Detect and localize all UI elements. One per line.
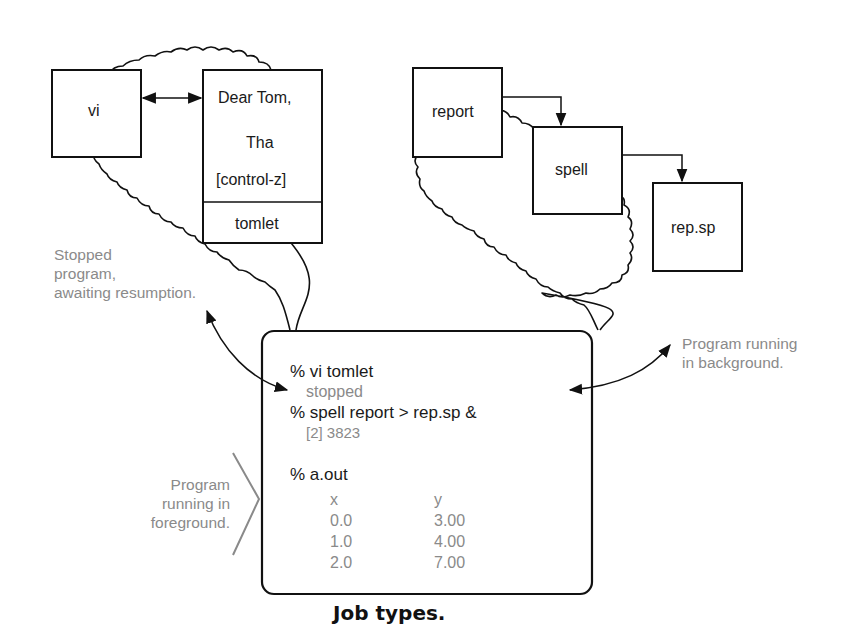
report-label: report — [432, 103, 474, 121]
table-cell: 0.0 — [330, 512, 352, 530]
figure-caption: Job types. — [333, 601, 445, 625]
background-annotation-line: Program running — [682, 334, 797, 353]
spell-to-repsp-arrow — [622, 155, 682, 181]
table-cell: 2.0 — [330, 554, 352, 572]
table-header-y: y — [434, 491, 442, 509]
stopped-annotation-line: awaiting resumption. — [54, 283, 196, 302]
foreground-annotation-line: running in — [138, 494, 230, 513]
table-cell: 7.00 — [434, 554, 465, 572]
table-cell: 1.0 — [330, 533, 352, 551]
rep-sp-label: rep.sp — [671, 219, 715, 237]
table-header-x: x — [330, 491, 338, 509]
file-name-label: tomlet — [235, 215, 279, 233]
stopped-annotation: Stopped program, awaiting resumption. — [54, 245, 196, 302]
terminal-output-jobid: [2] 3823 — [306, 424, 360, 441]
report-to-spell-arrow — [502, 97, 561, 125]
terminal-output-stopped: stopped — [306, 383, 363, 401]
vi-label: vi — [88, 102, 100, 120]
spell-label: spell — [555, 161, 588, 179]
foreground-annotation-line: foreground. — [138, 513, 230, 532]
foreground-annotation: Program running in foreground. — [138, 475, 230, 532]
file-line-1: Dear Tom, — [218, 89, 292, 107]
diagram-canvas — [0, 0, 842, 634]
file-line-3: [control-z] — [216, 171, 286, 189]
stopped-annotation-line: Stopped — [54, 245, 196, 264]
stopped-annotation-line: program, — [54, 264, 196, 283]
table-cell: 4.00 — [434, 533, 465, 551]
table-cell: 3.00 — [434, 512, 465, 530]
background-annotation-line: in background. — [682, 353, 797, 372]
terminal-command-spell: % spell report > rep.sp & — [290, 403, 477, 423]
background-annotation: Program running in background. — [682, 334, 797, 372]
file-line-2: Tha — [246, 134, 274, 152]
foreground-bracket — [233, 453, 259, 555]
terminal-command-vi: % vi tomlet — [290, 362, 373, 382]
foreground-annotation-line: Program — [138, 475, 230, 494]
terminal-command-aout: % a.out — [290, 465, 348, 485]
